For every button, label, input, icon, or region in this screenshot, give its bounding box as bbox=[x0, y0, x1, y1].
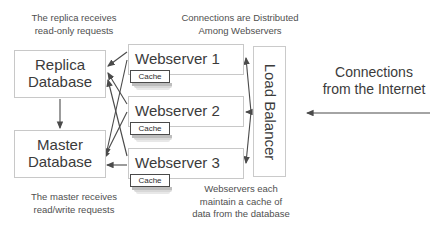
cache-caption: Webservers each maintain a cache of data… bbox=[162, 183, 320, 221]
cache-shadow-outer bbox=[136, 140, 170, 142]
replica-database-node[interactable]: Replica Database bbox=[14, 50, 106, 98]
replica-database-label-line1: Replica bbox=[35, 57, 85, 74]
load-balancer-node[interactable]: Load Balancer bbox=[253, 46, 286, 177]
master-caption: The master receives read/write requests bbox=[6, 191, 142, 216]
cache-shadow-mid bbox=[134, 190, 172, 192]
replica-database-label-line2: Database bbox=[28, 74, 92, 91]
webserver-1-cache[interactable]: Cache bbox=[130, 70, 178, 92]
cache-shadow-inner bbox=[132, 187, 172, 190]
arrow-ws1-to-replica bbox=[108, 52, 127, 66]
webserver-1-cache-label: Cache bbox=[130, 70, 170, 83]
master-database-node[interactable]: Master Database bbox=[14, 130, 106, 178]
diagram-canvas: Replica Database Master Database Webserv… bbox=[0, 0, 440, 239]
arrow-lb-to-ws1 bbox=[246, 58, 251, 112]
replica-caption: The replica receives read-only requests bbox=[6, 12, 142, 37]
webserver-2-label: Webserver 2 bbox=[135, 103, 220, 120]
master-database-label-line2: Database bbox=[28, 154, 92, 171]
cache-shadow-inner bbox=[132, 135, 172, 138]
arrow-lb-to-ws3 bbox=[246, 112, 251, 163]
master-database-label-line1: Master bbox=[37, 137, 83, 154]
cache-shadow-mid bbox=[134, 86, 172, 88]
webserver-1-label: Webserver 1 bbox=[135, 51, 220, 68]
webserver-3-label: Webserver 3 bbox=[135, 155, 220, 172]
webserver-2-cache[interactable]: Cache bbox=[130, 122, 178, 144]
arrow-ws1-to-master bbox=[106, 60, 127, 155]
webserver-2-cache-label: Cache bbox=[130, 122, 170, 135]
cache-shadow-inner bbox=[132, 83, 172, 86]
arrow-ws3-to-replica bbox=[108, 80, 127, 156]
distribution-caption: Connections are Distributed Among Webser… bbox=[160, 12, 320, 37]
load-balancer-label: Load Balancer bbox=[261, 63, 278, 160]
webserver-3-cache-label: Cache bbox=[130, 174, 170, 187]
cache-shadow-mid bbox=[134, 138, 172, 140]
cache-shadow-outer bbox=[136, 88, 170, 90]
arrow-ws2-to-replica bbox=[108, 73, 127, 104]
internet-connections-label: Connections from the Internet bbox=[310, 64, 438, 98]
arrow-ws2-to-master bbox=[104, 112, 127, 158]
